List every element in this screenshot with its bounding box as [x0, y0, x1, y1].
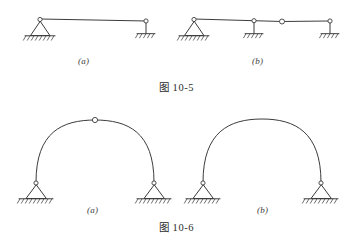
figure-10-6-caption: 图 10-6	[0, 222, 353, 234]
arch-a	[17, 117, 171, 203]
beam-b-right-link-support	[320, 19, 339, 38]
figure-10-6-sublabel-b: (b)	[257, 205, 268, 215]
arch-a-right-rib	[95, 120, 154, 182]
figure-10-6-sublabel-a: (a)	[87, 205, 98, 215]
pin-circle-icon	[192, 17, 196, 21]
beam-a	[23, 17, 155, 40]
arch-a-left-pin-support	[17, 181, 53, 203]
figure-10-6: (a) (b) 图 10-6	[0, 102, 353, 241]
figure-10-5-sublabel-b: (b)	[252, 56, 263, 66]
beam-b-left-pin-support	[177, 17, 209, 40]
figure-10-5: (a) (b) 图 10-5	[0, 0, 353, 102]
arch-b-rib	[203, 119, 321, 182]
support-triangle-icon	[26, 185, 46, 198]
beam-a-right-link-support	[136, 19, 155, 38]
pin-circle-icon	[34, 181, 38, 185]
beam-b-internal-hinge-icon	[280, 19, 285, 24]
beam-b	[177, 17, 339, 40]
ground-hatching	[136, 34, 154, 38]
ground-hatching	[177, 36, 208, 40]
pin-circle-icon	[144, 19, 148, 23]
pin-circle-icon	[152, 181, 156, 185]
arch-b-left-pin-support	[184, 181, 220, 203]
figure-10-6-drawing	[0, 102, 353, 214]
pin-circle-icon	[252, 19, 256, 23]
ground-hatching	[302, 199, 337, 203]
ground-hatching	[17, 199, 52, 203]
ground-hatching	[320, 34, 338, 38]
support-triangle-icon	[31, 22, 50, 36]
ground-hatching	[23, 36, 54, 40]
arch-a-right-pin-support	[135, 181, 171, 203]
figure-10-5-caption: 图 10-5	[0, 82, 353, 94]
arch-b	[184, 119, 338, 203]
ground-hatching	[184, 199, 219, 203]
ground-hatching	[244, 34, 262, 38]
arch-b-right-pin-support	[302, 181, 338, 203]
ground-hatching	[135, 199, 170, 203]
pin-circle-icon	[328, 19, 332, 23]
beam-b-member	[194, 19, 330, 22]
pin-circle-icon	[201, 181, 205, 185]
figure-10-5-sublabel-a: (a)	[78, 56, 89, 66]
arch-a-crown-hinge-icon	[92, 117, 97, 122]
beam-b-middle-link-support	[244, 19, 263, 38]
figure-10-5-drawing	[0, 0, 353, 76]
arch-a-left-rib	[36, 120, 95, 182]
beam-a-member	[40, 19, 146, 21]
support-triangle-icon	[144, 185, 164, 198]
support-triangle-icon	[185, 22, 204, 36]
pin-circle-icon	[319, 181, 323, 185]
support-triangle-icon	[311, 185, 331, 198]
support-triangle-icon	[193, 185, 213, 198]
beam-a-left-pin-support	[23, 17, 55, 40]
pin-circle-icon	[38, 17, 42, 21]
